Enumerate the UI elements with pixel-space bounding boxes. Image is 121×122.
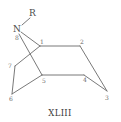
position-3: 3 bbox=[105, 94, 109, 101]
position-6: 6 bbox=[9, 95, 13, 102]
position-5: 5 bbox=[42, 77, 46, 84]
atom-labels: R N bbox=[13, 8, 36, 34]
position-2: 2 bbox=[80, 38, 84, 45]
position-8: 8 bbox=[15, 34, 19, 41]
bond-c5-c6 bbox=[12, 75, 42, 94]
bonds bbox=[12, 18, 107, 94]
bond-n-c5 bbox=[19, 34, 42, 75]
atom-label-n: N bbox=[13, 24, 21, 34]
bond-c6-c7 bbox=[12, 66, 15, 94]
bond-c3-c4 bbox=[84, 75, 107, 91]
position-4: 4 bbox=[83, 76, 87, 83]
position-numbers: 8 1 2 3 4 5 6 7 bbox=[8, 34, 109, 102]
chemical-structure-diagram: R N 8 1 2 3 4 5 6 7 XLIII bbox=[0, 0, 121, 122]
figure-title: XLIII bbox=[48, 108, 71, 118]
bond-r-n bbox=[22, 18, 30, 25]
atom-label-r: R bbox=[29, 8, 36, 18]
position-1: 1 bbox=[40, 38, 44, 45]
bond-c2-c3 bbox=[80, 46, 107, 91]
position-7: 7 bbox=[8, 62, 12, 69]
bond-n-c1 bbox=[21, 32, 40, 46]
